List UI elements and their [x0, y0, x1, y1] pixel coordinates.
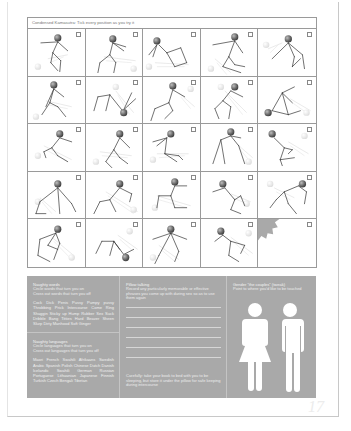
bottom-panel: Naughty words Circle words that turn you…: [27, 276, 316, 398]
position-cell: [86, 124, 144, 172]
badge-text: Make up your own and draw it here!: [275, 238, 299, 250]
position-cell: [86, 77, 144, 125]
positions-grid-cells: Make up your own and draw it here!: [28, 29, 316, 267]
gender-instructions: Point to where you'd like to be touched: [233, 287, 311, 292]
position-checkbox[interactable]: [191, 32, 196, 37]
naughty-words-instruction-2: Cross out words that turn you off: [33, 292, 114, 297]
section-divider: [27, 332, 119, 333]
gender-column: Gender "the couples" (tweak) Point to wh…: [227, 276, 316, 398]
custom-position-cell: Make up your own and draw it here!: [258, 219, 316, 267]
writing-line[interactable]: [126, 337, 221, 338]
position-cell: [258, 29, 316, 77]
position-cell: [86, 29, 144, 77]
position-checkbox[interactable]: [307, 80, 312, 85]
position-checkbox[interactable]: [307, 127, 312, 132]
position-cell: [258, 124, 316, 172]
position-checkbox[interactable]: [76, 175, 81, 180]
position-checkbox[interactable]: [191, 127, 196, 132]
position-checkbox[interactable]: [248, 222, 253, 227]
pillow-talking-footnote: Carefully: take your book to bed with yo…: [126, 374, 221, 388]
position-cell: [143, 172, 201, 220]
position-checkbox[interactable]: [248, 32, 253, 37]
position-cell: [143, 29, 201, 77]
pillow-talking-column: Pillow talking Record any particularly m…: [120, 276, 227, 398]
writing-line[interactable]: [126, 317, 221, 318]
position-cell: [28, 77, 86, 125]
position-cell: [28, 124, 86, 172]
position-checkbox[interactable]: [191, 175, 196, 180]
writing-lines[interactable]: [126, 307, 221, 358]
position-checkbox[interactable]: [133, 127, 138, 132]
position-checkbox[interactable]: [133, 80, 138, 85]
position-cell: [86, 219, 144, 267]
position-checkbox[interactable]: [133, 222, 138, 227]
position-checkbox[interactable]: [307, 175, 312, 180]
position-cell: [201, 29, 259, 77]
position-cell: [201, 124, 259, 172]
position-checkbox[interactable]: [133, 32, 138, 37]
position-checkbox[interactable]: [133, 175, 138, 180]
position-cell: [28, 219, 86, 267]
naughty-words-list[interactable]: Cock Dick Penis Pussy Pumpy pussy Throbb…: [33, 300, 114, 326]
position-cell: [258, 77, 316, 125]
position-checkbox[interactable]: [248, 175, 253, 180]
position-checkbox[interactable]: [76, 80, 81, 85]
position-cell: [143, 219, 201, 267]
naughty-column: Naughty words Circle words that turn you…: [27, 276, 120, 398]
female-figure-icon[interactable]: [239, 303, 271, 391]
position-checkbox[interactable]: [248, 80, 253, 85]
writing-line[interactable]: [126, 347, 221, 348]
position-cell: [28, 29, 86, 77]
position-cell: [143, 124, 201, 172]
positions-grid: Condensed Kamasutra: Tick every position…: [27, 17, 317, 268]
writing-line[interactable]: [126, 307, 221, 308]
grid-title: Condensed Kamasutra: Tick every position…: [28, 18, 316, 29]
position-cell: [28, 172, 86, 220]
position-checkbox[interactable]: [191, 222, 196, 227]
couple-figures: [233, 298, 313, 394]
position-checkbox[interactable]: [248, 127, 253, 132]
writing-line[interactable]: [126, 327, 221, 328]
position-checkbox[interactable]: [76, 32, 81, 37]
page-number: 17: [308, 398, 324, 416]
naughty-languages-instruction-2: Cross out languages that turn you off: [33, 349, 114, 354]
pillow-talking-instructions: Record any particularly memorable or eff…: [126, 287, 221, 301]
position-cell: [86, 172, 144, 220]
position-checkbox[interactable]: [307, 32, 312, 37]
position-checkbox[interactable]: [76, 222, 81, 227]
position-checkbox[interactable]: [307, 222, 312, 227]
position-cell: [201, 172, 259, 220]
position-cell: [143, 77, 201, 125]
male-figure-icon[interactable]: [280, 303, 304, 392]
writing-line[interactable]: [126, 357, 221, 358]
position-cell: [201, 77, 259, 125]
position-checkbox[interactable]: [76, 127, 81, 132]
naughty-languages-list[interactable]: Maori French Swahili Afrikaans Swedish A…: [33, 357, 114, 383]
position-checkbox[interactable]: [191, 80, 196, 85]
position-cell: [258, 172, 316, 220]
position-cell: [201, 219, 259, 267]
